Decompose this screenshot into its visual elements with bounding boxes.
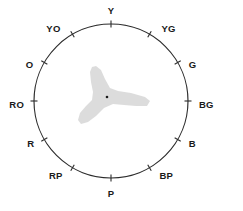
hue-label-ro: RO: [9, 99, 24, 110]
hue-label-bp: BP: [160, 170, 174, 181]
hue-label-b: B: [189, 138, 196, 149]
hue-label-o: O: [26, 59, 34, 70]
tick-mark-r: [41, 138, 47, 142]
tick-mark-yg: [148, 31, 152, 37]
hue-label-yg: YG: [162, 23, 176, 34]
tick-mark-bp: [148, 165, 152, 171]
hue-label-rp: RP: [49, 170, 63, 181]
tick-mark-rp: [71, 165, 75, 171]
hue-label-g: G: [189, 59, 197, 70]
hue-circle-svg: YYGGBGBBPPRPRROOYO: [0, 0, 243, 211]
hue-circle-figure: YYGGBGBBPPRPRROOYO: [0, 0, 243, 211]
hue-label-p: P: [108, 188, 115, 199]
tick-mark-o: [41, 61, 47, 65]
tick-mark-b: [175, 138, 181, 142]
tick-mark-g: [175, 61, 181, 65]
hue-label-r: R: [27, 138, 34, 149]
gamut-shape: [78, 66, 150, 124]
tick-mark-yo: [71, 31, 75, 37]
center-point-dot: [106, 96, 109, 99]
gamut-group: [78, 66, 150, 124]
hue-label-bg: BG: [199, 99, 214, 110]
hue-label-y: Y: [108, 5, 115, 16]
hue-label-yo: YO: [46, 23, 60, 34]
